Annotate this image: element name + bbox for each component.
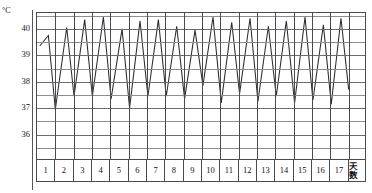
chart-root: °C 4039383736 1234567891011121314151617天… [0,0,372,193]
gridline-vertical [92,13,93,159]
x-axis-day-labels: 1234567891011121314151617天数 [36,160,366,182]
x-axis-day-10: 10 [202,160,220,181]
x-axis-day-17: 17 [330,160,348,181]
x-axis-day-2: 2 [55,160,73,181]
plot-area [36,12,366,160]
y-axis-tick-36: 36 [8,130,30,138]
gridline-major [37,55,365,56]
gridline-vertical [129,13,130,159]
gridline-vertical [202,13,203,159]
gridline-minor [37,121,365,122]
y-axis-tick-labels: 4039383736 [8,0,30,193]
x-axis-day-14: 14 [275,160,293,181]
x-axis-day-8: 8 [165,160,183,181]
x-axis-day-16: 16 [312,160,330,181]
gridline-major [37,108,365,109]
gridline-vertical [220,13,221,159]
gridline-minor [37,148,365,149]
x-axis-day-5: 5 [110,160,128,181]
x-axis-day-7: 7 [147,160,165,181]
gridline-vertical [349,13,350,159]
y-axis-spine [32,10,33,190]
x-axis-day-3: 3 [74,160,92,181]
x-axis-day-9: 9 [184,160,202,181]
x-axis-day-12: 12 [239,160,257,181]
x-axis-day-11: 11 [220,160,238,181]
gridline-vertical [330,13,331,159]
gridline-vertical [294,13,295,159]
gridline-vertical [110,13,111,159]
gridline-major [37,29,365,30]
x-axis-day-15: 15 [294,160,312,181]
gridline-minor [37,42,365,43]
y-axis-tick-39: 39 [8,50,30,58]
x-axis-caption: 天数 [349,160,367,181]
gridline-vertical [239,13,240,159]
gridline-vertical [184,13,185,159]
x-axis-day-6: 6 [129,160,147,181]
gridline-vertical [55,13,56,159]
gridline-vertical [312,13,313,159]
y-axis-tick-40: 40 [8,24,30,32]
gridline-major [37,82,365,83]
x-axis-day-13: 13 [257,160,275,181]
gridline-vertical [257,13,258,159]
y-axis-tick-37: 37 [8,103,30,111]
gridline-major [37,135,365,136]
gridline-vertical [165,13,166,159]
x-axis-day-4: 4 [92,160,110,181]
gridline-minor [37,95,365,96]
gridline-minor [37,69,365,70]
gridline-vertical [147,13,148,159]
gridline-minor [37,16,365,17]
gridline-vertical [275,13,276,159]
x-axis-day-1: 1 [37,160,55,181]
gridline-vertical [74,13,75,159]
y-axis-tick-38: 38 [8,77,30,85]
